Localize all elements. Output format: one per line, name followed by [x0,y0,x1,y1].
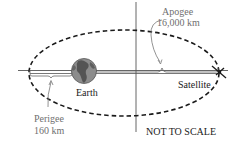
earth-globe-icon [72,59,97,84]
apogee-title: Apogee [162,7,193,17]
satellite-label: Satellite [178,80,211,90]
apogee-brace [95,68,218,72]
orbit-ellipse [29,30,219,116]
perigee-title: Perigee [34,114,64,124]
perigee-callout-line [48,82,51,107]
orbit-diagram: Apogee 16,000 km Perigee 160 km Earth Sa… [0,0,241,145]
perigee-brace [30,70,72,78]
perigee-value: 160 km [34,126,64,136]
earth-label: Earth [76,88,98,98]
scale-note: NOT TO SCALE [146,127,216,137]
apogee-value: 16,000 km [157,18,200,28]
